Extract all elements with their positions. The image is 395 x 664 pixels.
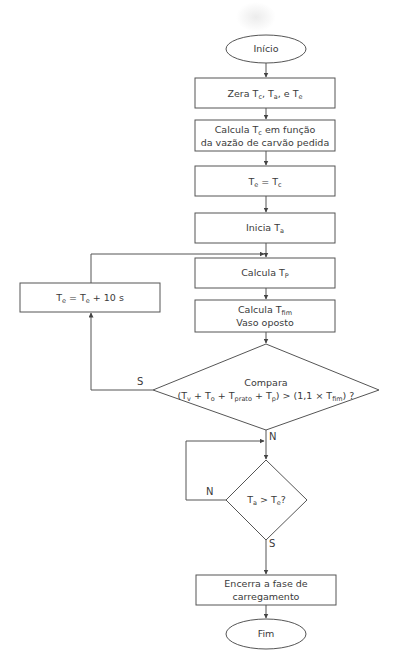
start-label: Início	[226, 42, 306, 55]
te-eq-tc-label: Te = Tc	[195, 175, 335, 188]
ta-no-label: N	[206, 486, 213, 497]
calc-tc-label: Calcula Tc em função da vazão de carvão …	[195, 123, 335, 149]
compare-yes-label: S	[137, 376, 143, 387]
scan-smudge	[236, 2, 276, 32]
start-ta-label: Inicia Ta	[195, 221, 335, 234]
end-label: Fim	[226, 627, 306, 640]
zero-timers-label: Zera Tc, Ta, e Te	[195, 87, 335, 100]
end-loading-label: Encerra a fase de carregamento	[196, 577, 336, 603]
ta-yes-label: S	[269, 538, 275, 549]
increment-te-label: Te = Te + 10 s	[20, 291, 160, 304]
compare-no-label: N	[269, 431, 276, 442]
ta-gt-te-label: Ta > Te?	[226, 493, 307, 506]
compare-label: Compara (Tv + To + Tprato + Tp) > (1,1 ×…	[160, 376, 372, 402]
calc-tfim-label: Calcula Tfim Vaso oposto	[195, 303, 335, 329]
calc-tp-label: Calcula TP	[195, 266, 335, 279]
edge-compare-yes	[91, 313, 153, 390]
